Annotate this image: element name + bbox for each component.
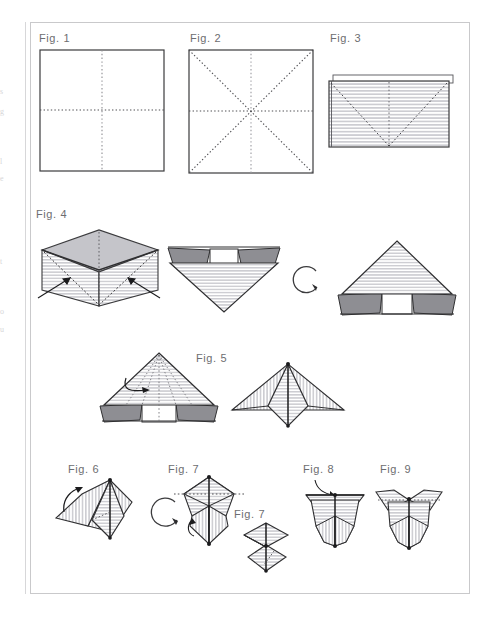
fig-1-label: Fig. 1: [39, 32, 70, 44]
fig-2-label: Fig. 2: [190, 32, 221, 44]
diagram-page: s g l e t o u Fig. 1 Fig. 2 Fig. 3: [0, 0, 482, 619]
fig-2-diagram: [188, 49, 314, 175]
fig-4-stage-b-inverted-triangle: [166, 236, 282, 316]
fig-9-diagram: [372, 478, 446, 552]
fig-5-stage-b-bird-base: [230, 360, 346, 432]
fig-4-stage-c-upright-triangle: [336, 237, 458, 319]
fig-4-label: Fig. 4: [36, 208, 67, 220]
fig-8-label: Fig. 8: [303, 463, 334, 475]
fig-6-label: Fig. 6: [68, 463, 99, 475]
fig-7-detail-diagram: [238, 521, 294, 577]
margin-divider-rule: [25, 22, 26, 594]
fig-6-diagram: [52, 476, 148, 548]
fig-7-detail-label: Fig. 7: [234, 508, 265, 520]
fig-1-diagram: [39, 49, 165, 173]
fig-4-rotation-arrow: [290, 262, 324, 298]
fig-5-stage-a-triangle: [98, 350, 220, 428]
fig-9-label: Fig. 9: [380, 463, 411, 475]
fig-8-diagram: [302, 478, 368, 550]
fig-3-diagram: [327, 73, 457, 151]
fig-4-stage-a-box: [34, 228, 164, 312]
fig-3-label: Fig. 3: [330, 32, 361, 44]
